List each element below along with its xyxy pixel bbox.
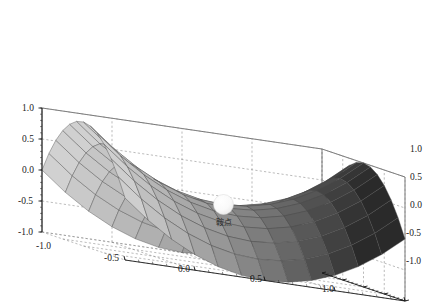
- y-axis-tick-label: 0.5: [410, 172, 422, 182]
- z-axis-tick-label: 0.5: [22, 134, 34, 144]
- x-axis-tick-label: -1.0: [36, 241, 51, 251]
- plot-canvas: 鞍点 1.00.50.0-0.5-1.0-1.0-0.50.00.51.01.0…: [0, 0, 432, 304]
- z-axis-tick-label: -0.5: [18, 196, 33, 206]
- x-axis-tick-label: 0.5: [250, 274, 262, 284]
- x-axis-tick-label: 1.0: [322, 284, 334, 294]
- x-axis-tick-label: -0.5: [104, 253, 119, 263]
- z-axis-tick-label: 1.0: [22, 103, 34, 113]
- saddle-point-marker: 鞍点: [214, 195, 234, 227]
- z-axis-tick-label: 0.0: [22, 165, 34, 175]
- y-axis-tick-label: 1.0: [410, 144, 422, 154]
- z-axis-tick-label: -1.0: [18, 227, 33, 237]
- saddle-point-sphere: [214, 195, 234, 215]
- saddle-point-label: 鞍点: [216, 217, 232, 227]
- y-axis-tick-label: -1.0: [406, 256, 421, 266]
- surface-plot-figure: 鞍点 1.00.50.0-0.5-1.0-1.0-0.50.00.51.01.0…: [0, 0, 432, 304]
- y-axis-tick-label: -0.5: [406, 228, 421, 238]
- y-axis-tick-label: 0.0: [410, 200, 422, 210]
- x-axis-tick-label: 0.0: [178, 264, 190, 274]
